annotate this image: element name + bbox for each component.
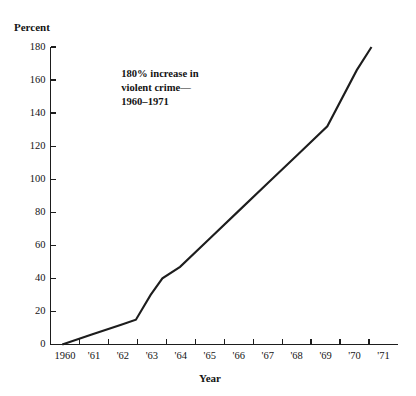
y-tick-label: 40	[35, 272, 46, 283]
x-tick-label: '65	[204, 350, 216, 361]
y-axis-title: Percent	[14, 21, 50, 33]
x-axis-title: Year	[199, 372, 221, 384]
y-tick-label: 140	[30, 107, 46, 118]
y-tick-label: 160	[30, 74, 46, 85]
x-tick-label: 1960	[54, 350, 75, 361]
y-tick-label: 120	[30, 140, 46, 151]
y-tick-label: 180	[30, 41, 46, 52]
y-tick-label: 60	[35, 239, 46, 250]
y-tick-label: 100	[30, 173, 46, 184]
x-tick-label: '67	[261, 350, 273, 361]
x-tick-label: '71	[377, 350, 389, 361]
x-tick-label: '64	[175, 350, 188, 361]
annotation-line: 1960–1971	[121, 96, 169, 107]
x-tick-label: '68	[290, 350, 302, 361]
line-chart: Percent 020406080100120140160180 1960'61…	[0, 0, 416, 396]
x-axis-ticks: 1960'61'62'63'64'65'66'67'68'69'70'71	[54, 339, 389, 361]
annotation-line: 180% increase in	[121, 68, 199, 79]
chart-container: Percent 020406080100120140160180 1960'61…	[0, 0, 416, 396]
x-tick-label: '66	[233, 350, 245, 361]
y-axis-ticks: 020406080100120140160180	[30, 41, 56, 350]
x-tick-label: '70	[348, 350, 360, 361]
y-tick-label: 20	[35, 305, 46, 316]
x-tick-label: '63	[146, 350, 158, 361]
x-tick-label: '61	[88, 350, 100, 361]
chart-annotation-group: 180% increase inviolent crime—1960–1971	[121, 68, 199, 107]
y-tick-label: 80	[35, 206, 46, 217]
annotation-line: violent crime—	[121, 82, 191, 93]
x-tick-label: '69	[319, 350, 331, 361]
y-tick-label: 0	[40, 338, 45, 349]
data-line-violent-crime	[62, 47, 371, 345]
x-tick-label: '62	[117, 350, 129, 361]
